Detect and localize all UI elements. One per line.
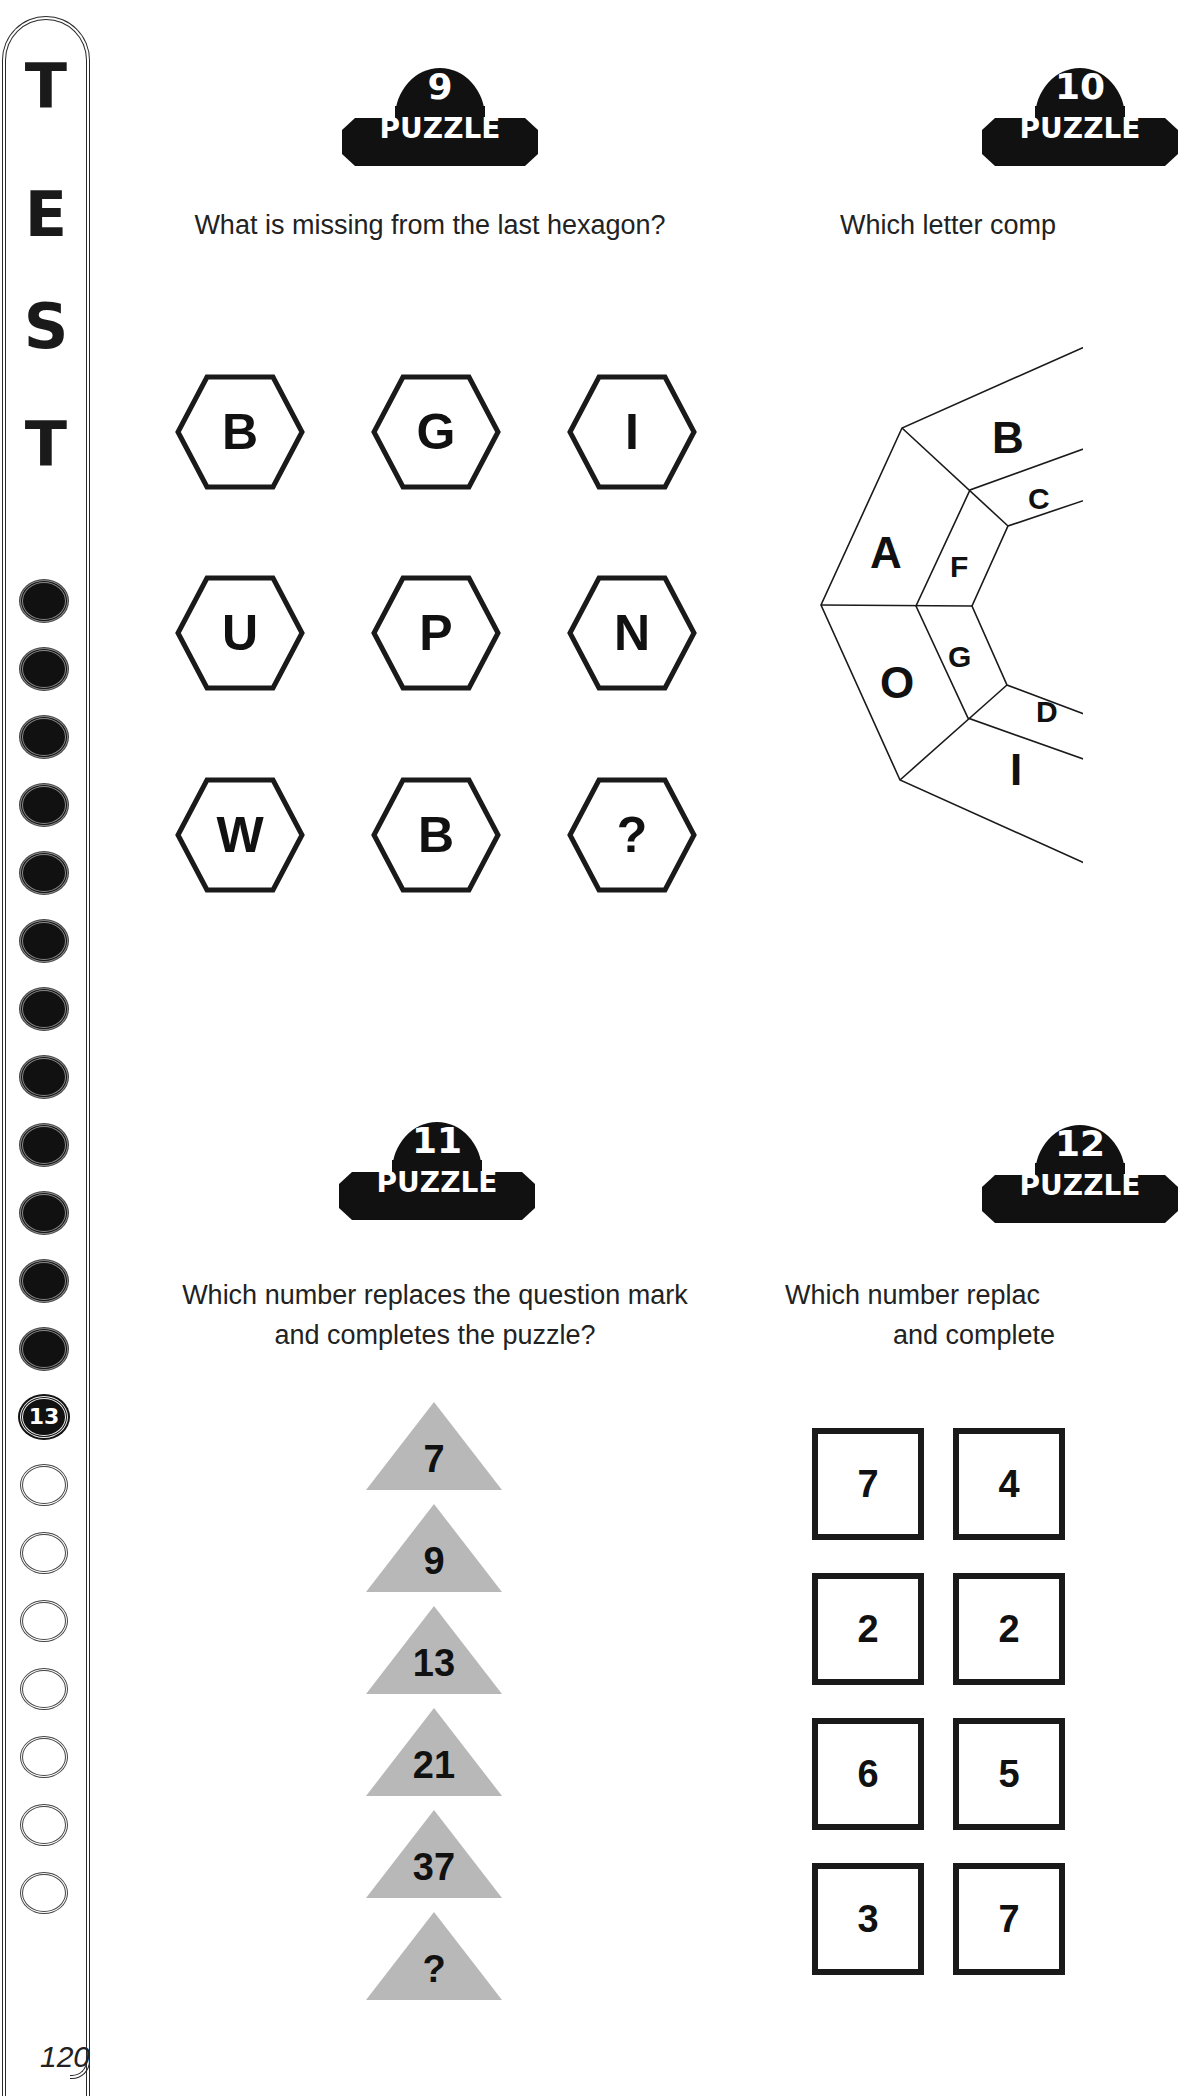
- octagon-outer-letter: I: [1010, 745, 1022, 795]
- progress-dot-remaining: [20, 1668, 68, 1710]
- progress-dot-completed: [20, 1328, 68, 1370]
- page-number: 120: [40, 2040, 90, 2074]
- triangle-number: 9: [366, 1540, 502, 1583]
- hexagon-letter: W: [174, 776, 306, 894]
- triangle-number: 21: [366, 1744, 502, 1787]
- hexagon-cell: G: [370, 373, 502, 491]
- question-line: Which number replaces the question mark: [120, 1275, 750, 1315]
- hexagon-letter: P: [370, 574, 502, 692]
- progress-dot-completed: [20, 1124, 68, 1166]
- hexagon-cell: I: [566, 373, 698, 491]
- puzzle-12-question: Which number replac and complete: [785, 1275, 1055, 1355]
- number-square: 6: [812, 1718, 924, 1830]
- hexagon-cell: ?: [566, 776, 698, 894]
- hexagon-letter: B: [174, 373, 306, 491]
- hexagon-cell: N: [566, 574, 698, 692]
- octagon-inner-letter: G: [948, 640, 971, 674]
- test-letter-s: S: [0, 290, 92, 363]
- question-line: and completes the puzzle?: [120, 1315, 750, 1355]
- progress-dot-completed: [20, 920, 68, 962]
- octagon-inner-letter: F: [950, 550, 968, 584]
- number-square: 7: [953, 1863, 1065, 1975]
- triangle-number: 7: [366, 1438, 502, 1481]
- progress-dot-completed: [20, 648, 68, 690]
- number-square: 7: [812, 1428, 924, 1540]
- progress-dot-completed: [20, 1056, 68, 1098]
- number-triangle: 7: [366, 1402, 502, 1490]
- hexagon-letter: G: [370, 373, 502, 491]
- letter-octagon: B C A F G O D I: [800, 340, 1083, 944]
- puzzle-label: PUZZLE: [337, 1166, 537, 1199]
- number-triangle: 13: [366, 1606, 502, 1694]
- progress-dot-completed: [20, 1260, 68, 1302]
- question-line: and complete: [785, 1315, 1055, 1355]
- hexagon-letter: U: [174, 574, 306, 692]
- progress-dot-completed: [20, 580, 68, 622]
- hexagon-cell: B: [174, 373, 306, 491]
- number-square: 4: [953, 1428, 1065, 1540]
- progress-dot-remaining: [20, 1804, 68, 1846]
- progress-dot-remaining: [20, 1872, 68, 1914]
- number-triangle: 9: [366, 1504, 502, 1592]
- number-triangle: ?: [366, 1912, 502, 2000]
- puzzle-number: 12: [980, 1123, 1180, 1164]
- hexagon-cell: W: [174, 776, 306, 894]
- puzzle-number: 11: [337, 1120, 537, 1161]
- progress-dot-current: 13: [20, 1396, 68, 1438]
- puzzle-label: PUZZLE: [340, 112, 540, 145]
- triangle-number: ?: [366, 1948, 502, 1991]
- octagon-outline: [800, 340, 1083, 940]
- puzzle-number: 10: [980, 66, 1180, 107]
- hexagon-letter: B: [370, 776, 502, 894]
- octagon-inner-letter: D: [1036, 695, 1058, 729]
- octagon-outer-letter: O: [880, 658, 914, 708]
- puzzle-12-badge: 12 PUZZLE: [980, 1115, 1180, 1235]
- progress-dot-remaining: [20, 1600, 68, 1642]
- progress-dot-remaining: [20, 1464, 68, 1506]
- puzzle-11-question: Which number replaces the question mark …: [120, 1275, 750, 1355]
- number-square: 5: [953, 1718, 1065, 1830]
- hexagon-cell: P: [370, 574, 502, 692]
- test-letter-t: T: [0, 50, 92, 123]
- number-triangle: 37: [366, 1810, 502, 1898]
- puzzle-number: 9: [340, 66, 540, 107]
- number-square: 2: [812, 1573, 924, 1685]
- progress-dot-completed: [20, 852, 68, 894]
- progress-dot-completed: [20, 988, 68, 1030]
- puzzle-10-badge: 10 PUZZLE: [980, 58, 1180, 178]
- puzzle-label: PUZZLE: [980, 1169, 1180, 1202]
- progress-dot-completed: [20, 716, 68, 758]
- number-square: 3: [812, 1863, 924, 1975]
- number-square: 2: [953, 1573, 1065, 1685]
- puzzle-11-badge: 11 PUZZLE: [337, 1112, 537, 1232]
- hexagon-cell: B: [370, 776, 502, 894]
- progress-dot-remaining: [20, 1532, 68, 1574]
- number-triangle: 21: [366, 1708, 502, 1796]
- puzzle-10-question: Which letter comp: [840, 205, 1056, 245]
- hexagon-letter: N: [566, 574, 698, 692]
- triangle-number: 13: [366, 1642, 502, 1685]
- question-line: Which number replac: [785, 1275, 1055, 1315]
- puzzle-label: PUZZLE: [980, 112, 1180, 145]
- test-letter-t2: T: [0, 408, 92, 481]
- test-letter-e: E: [0, 178, 92, 251]
- triangle-number: 37: [366, 1846, 502, 1889]
- puzzle-9-question: What is missing from the last hexagon?: [130, 205, 730, 245]
- hexagon-letter: ?: [566, 776, 698, 894]
- octagon-outer-letter: A: [870, 528, 902, 578]
- hexagon-cell: U: [174, 574, 306, 692]
- progress-dot-completed: [20, 1192, 68, 1234]
- octagon-outer-letter: B: [992, 413, 1024, 463]
- puzzle-9-badge: 9 PUZZLE: [340, 58, 540, 178]
- hexagon-letter: I: [566, 373, 698, 491]
- progress-dot-remaining: [20, 1736, 68, 1778]
- progress-dot-completed: [20, 784, 68, 826]
- octagon-inner-letter: C: [1028, 482, 1050, 516]
